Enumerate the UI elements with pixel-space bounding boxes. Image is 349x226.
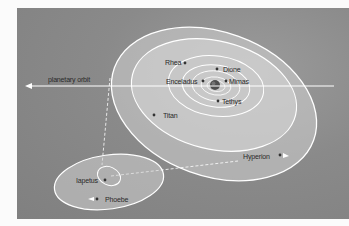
enceladus-marker-icon bbox=[202, 80, 205, 83]
dione-marker-icon bbox=[216, 68, 219, 71]
moon-label-rhea: Rhea bbox=[165, 58, 181, 67]
moon-label-tethys: Tethys bbox=[222, 97, 241, 106]
tethys-marker-icon bbox=[217, 100, 220, 103]
moon-label-hyperion: Hyperion bbox=[243, 152, 270, 161]
moon-label-mimas: Mimas bbox=[229, 77, 249, 86]
phoebe-marker-icon bbox=[96, 198, 99, 201]
saturn-planet-icon bbox=[210, 80, 220, 90]
rhea-marker-icon bbox=[184, 62, 187, 65]
mimas-marker-icon bbox=[225, 80, 228, 83]
iapetus-marker-icon bbox=[104, 179, 107, 182]
moon-label-iapetus: Iapetus bbox=[76, 176, 98, 185]
planetary-orbit-label: planetary orbit bbox=[48, 75, 90, 84]
moon-label-enceladus: Enceladus bbox=[166, 77, 197, 86]
hyperion-marker-icon bbox=[279, 154, 282, 157]
moon-label-dione: Dione bbox=[223, 65, 241, 74]
moon-label-titan: Titan bbox=[163, 111, 178, 120]
outer-system-orbits bbox=[51, 148, 167, 217]
titan-marker-icon bbox=[153, 114, 156, 117]
moon-label-phoebe: Phoebe bbox=[105, 195, 128, 204]
